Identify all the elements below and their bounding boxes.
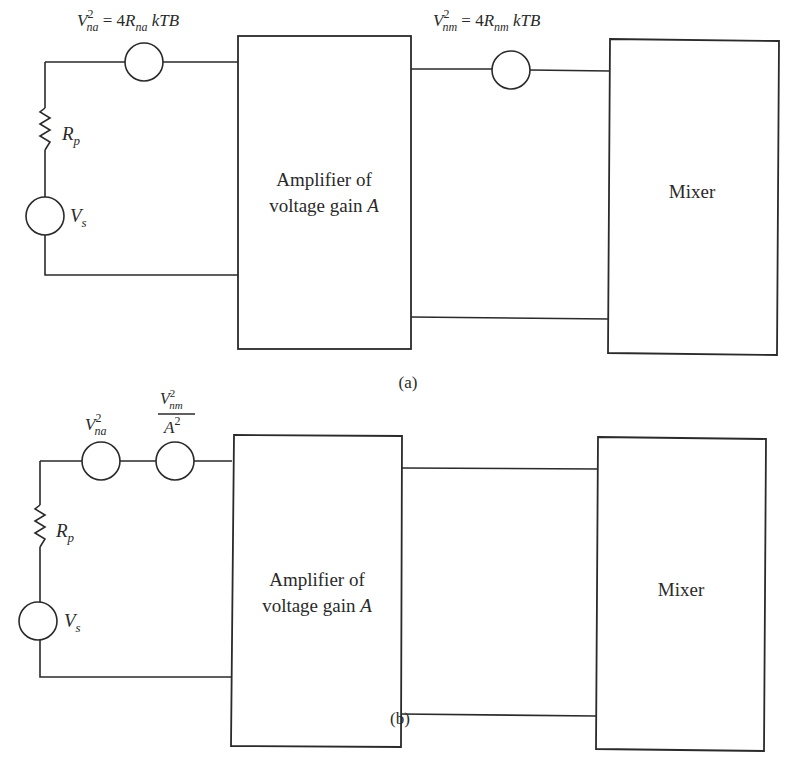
resistor-b-label: Rp	[55, 520, 75, 545]
wire-b-top-interstage	[402, 468, 598, 469]
noise-source-amp-a-label: V2na = 4Rna kTB	[77, 7, 180, 34]
amplifier-b-label-line2: voltage gain A	[262, 595, 372, 616]
amplifier-a-label-line2: voltage gain A	[269, 195, 379, 216]
mixer-a-label: Mixer	[669, 181, 716, 202]
noise-source-mixer-referred-b-icon	[156, 442, 194, 480]
noise-source-amp-b-label: V2na	[85, 411, 106, 438]
amplifier-b-block	[231, 435, 402, 747]
fraction-numerator: V2nm	[160, 387, 183, 411]
voltage-source-a-label: Vs	[70, 205, 87, 230]
noise-source-mixer-referred-b-label: V2nm A2	[158, 387, 195, 437]
amplifier-b-label-line1: Amplifier of	[269, 569, 365, 590]
wire-a-bottom-interstage	[411, 317, 610, 319]
mixer-b-label: Mixer	[658, 579, 705, 600]
caption-b: (b)	[390, 709, 410, 728]
wire-b-bottom-interstage	[401, 714, 596, 716]
diagram-a: Rp Vs V2na = 4Rna kTB Amplifier of volta…	[26, 7, 779, 392]
voltage-source-b-icon	[19, 602, 57, 640]
amplifier-a-label-line1: Amplifier of	[276, 169, 372, 190]
noise-source-amp-b-icon	[82, 442, 120, 480]
voltage-source-a-icon	[26, 197, 64, 235]
noise-source-mixer-a-icon	[492, 51, 530, 89]
amplifier-a-block	[238, 36, 411, 349]
resistor-b-icon	[35, 505, 45, 547]
fraction-denominator: A2	[163, 414, 180, 437]
wire-b-left	[40, 461, 232, 677]
resistor-a-label: Rp	[61, 123, 81, 148]
noise-circuit-figure: Rp Vs V2na = 4Rna kTB Amplifier of volta…	[0, 0, 793, 765]
wire-a-left	[45, 62, 238, 275]
voltage-source-b-label: Vs	[64, 610, 81, 635]
noise-source-amp-a-icon	[125, 43, 163, 81]
noise-source-mixer-a-label: V2nm = 4Rnm kTB	[433, 7, 541, 34]
resistor-a-icon	[40, 108, 50, 150]
caption-a: (a)	[399, 373, 418, 392]
diagram-b: Rp Vs V2na V2nm A2 Amplifier of voltage …	[19, 387, 766, 751]
